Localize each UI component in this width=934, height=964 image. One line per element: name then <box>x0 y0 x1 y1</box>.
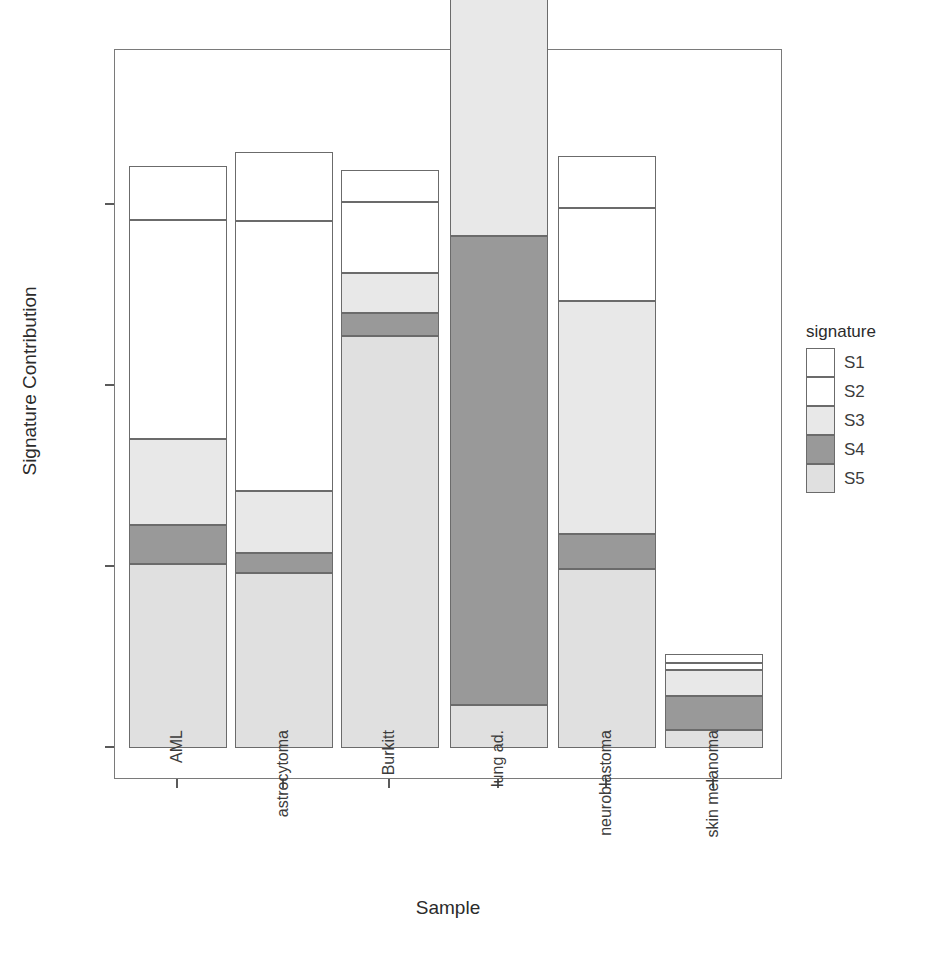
bar-segment-s3[interactable] <box>129 439 227 525</box>
bar-segment-s3[interactable] <box>341 273 439 313</box>
bar-stack[interactable] <box>558 50 656 780</box>
bar-segment-s1[interactable] <box>129 166 227 220</box>
y-tick-mark <box>105 203 114 205</box>
x-tick-label: AML <box>168 730 186 890</box>
legend-swatch-s3 <box>806 406 835 435</box>
bar-segment-s4[interactable] <box>450 236 548 705</box>
bar-segment-s2[interactable] <box>129 220 227 439</box>
bar-segment-s4[interactable] <box>665 696 763 730</box>
legend-title: signature <box>806 322 926 342</box>
bar-stack[interactable] <box>129 50 227 780</box>
legend-items: S1S2S3S4S5 <box>806 348 926 493</box>
plot-panel <box>114 49 782 779</box>
y-axis-label: Signature Contribution <box>19 131 41 631</box>
bar-stack[interactable] <box>450 50 548 780</box>
legend-item-s3[interactable]: S3 <box>806 406 926 435</box>
legend-item-s2[interactable]: S2 <box>806 377 926 406</box>
x-tick-label: neuroblastoma <box>597 730 615 890</box>
bar-stack[interactable] <box>665 50 763 780</box>
legend-label: S4 <box>844 440 865 460</box>
bar-segment-s2[interactable] <box>665 663 763 670</box>
bar-segment-s1[interactable] <box>341 170 439 202</box>
legend-label: S5 <box>844 469 865 489</box>
y-tick-mark <box>105 384 114 386</box>
bar-segment-s1[interactable] <box>235 152 333 221</box>
bar-segment-s3[interactable] <box>558 301 656 534</box>
bar-segment-s2[interactable] <box>341 202 439 273</box>
bar-segment-s2[interactable] <box>235 221 333 491</box>
legend-item-s1[interactable]: S1 <box>806 348 926 377</box>
bar-segment-s4[interactable] <box>558 534 656 569</box>
legend-swatch-s2 <box>806 377 835 406</box>
x-axis-label: Sample <box>114 897 782 919</box>
x-tick-label: lung ad. <box>489 730 507 890</box>
bar-segment-s4[interactable] <box>129 525 227 564</box>
bar-segment-s3[interactable] <box>450 0 548 236</box>
legend-label: S3 <box>844 411 865 431</box>
bar-segment-s4[interactable] <box>341 313 439 336</box>
bar-segment-s1[interactable] <box>558 156 656 208</box>
stacked-bar-chart: Signature Contribution 0.000.020.040.06 … <box>0 0 934 964</box>
legend-label: S1 <box>844 353 865 373</box>
bar-segment-s5[interactable] <box>341 336 439 748</box>
legend-swatch-s5 <box>806 464 835 493</box>
x-tick-label: astrocytoma <box>274 730 292 890</box>
legend: signature S1S2S3S4S5 <box>806 322 926 493</box>
bar-segment-s5[interactable] <box>558 569 656 748</box>
bar-segment-s5[interactable] <box>129 564 227 748</box>
y-tick-mark <box>105 746 114 748</box>
x-tick-label: skin melanoma <box>704 730 722 890</box>
bar-segment-s3[interactable] <box>235 491 333 553</box>
bar-segment-s3[interactable] <box>665 670 763 696</box>
bar-stack[interactable] <box>235 50 333 780</box>
bar-segment-s1[interactable] <box>665 654 763 663</box>
legend-item-s4[interactable]: S4 <box>806 435 926 464</box>
bar-segment-s4[interactable] <box>235 553 333 573</box>
bar-segment-s5[interactable] <box>235 573 333 748</box>
x-tick-label: Burkitt <box>380 730 398 890</box>
legend-label: S2 <box>844 382 865 402</box>
legend-swatch-s4 <box>806 435 835 464</box>
legend-item-s5[interactable]: S5 <box>806 464 926 493</box>
y-tick-mark <box>105 565 114 567</box>
bar-stack[interactable] <box>341 50 439 780</box>
legend-swatch-s1 <box>806 348 835 377</box>
bar-segment-s2[interactable] <box>558 208 656 301</box>
